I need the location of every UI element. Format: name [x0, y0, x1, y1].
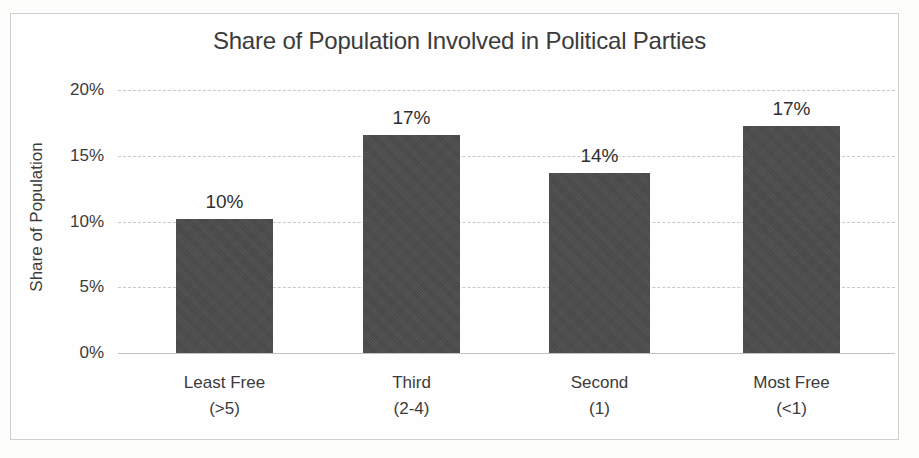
plot-area: 0%5%10%15%20% 10%Least Free(>5)17%Third(…	[118, 90, 895, 353]
bar[interactable]	[549, 173, 650, 353]
x-axis-category-label: Most Free(<1)	[743, 370, 840, 423]
x-axis-category-name: Most Free	[753, 373, 830, 392]
bar[interactable]	[743, 126, 840, 353]
x-axis-category-name: Second	[571, 373, 629, 392]
y-axis-tick-label: 20%	[70, 80, 104, 100]
bar-value-label: 17%	[363, 107, 460, 129]
y-axis-tick-label: 15%	[70, 146, 104, 166]
y-axis-tick-label: 0%	[79, 343, 104, 363]
x-axis-category-range: (<1)	[743, 396, 840, 422]
bar-group: 17%Third(2-4)	[363, 90, 460, 353]
y-axis-tick-label: 10%	[70, 212, 104, 232]
bar-value-label: 17%	[743, 98, 840, 120]
chart-container: Share of Population Involved in Politica…	[0, 0, 919, 458]
y-axis-title: Share of Population	[27, 117, 47, 317]
gridline-0%	[118, 353, 895, 354]
x-axis-category-name: Third	[392, 373, 431, 392]
bar-group: 10%Least Free(>5)	[176, 90, 273, 353]
bar-group: 14%Second(1)	[549, 90, 650, 353]
x-axis-category-name: Least Free	[184, 373, 265, 392]
x-axis-category-label: Least Free(>5)	[176, 370, 273, 423]
y-axis-tick-label: 5%	[79, 277, 104, 297]
x-axis-category-label: Third(2-4)	[363, 370, 460, 423]
bar-value-label: 10%	[176, 191, 273, 213]
x-axis-category-range: (>5)	[176, 396, 273, 422]
bar[interactable]	[176, 219, 273, 353]
bar-group: 17%Most Free(<1)	[743, 90, 840, 353]
bar[interactable]	[363, 135, 460, 353]
x-axis-category-range: (2-4)	[363, 396, 460, 422]
chart-title: Share of Population Involved in Politica…	[0, 27, 919, 55]
x-axis-category-range: (1)	[549, 396, 650, 422]
bar-value-label: 14%	[549, 145, 650, 167]
x-axis-category-label: Second(1)	[549, 370, 650, 423]
